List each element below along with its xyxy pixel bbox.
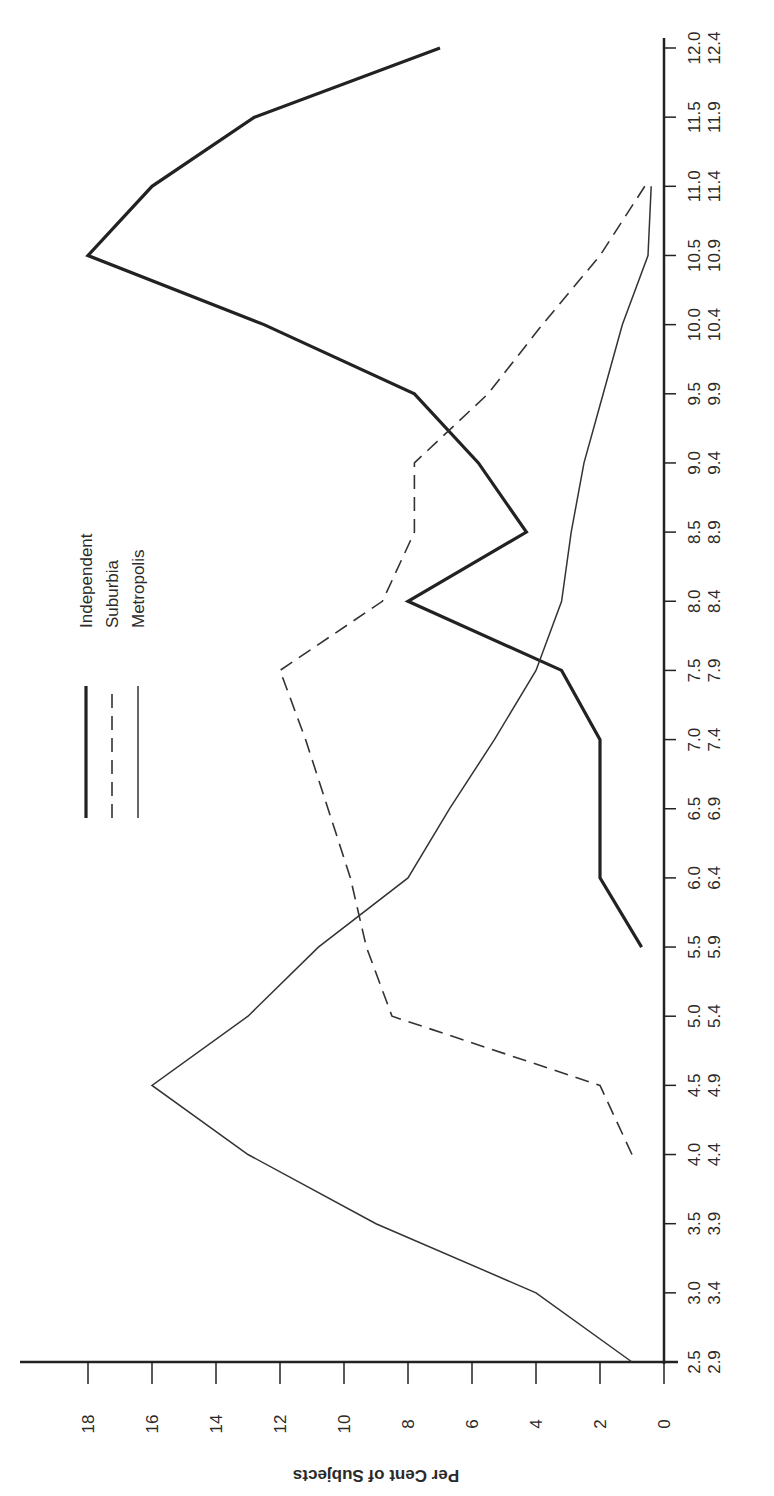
category-tick-label-secondary: 4.4: [705, 1143, 724, 1167]
legend: IndependentSuburbiaMetropolis: [77, 533, 148, 818]
line-chart: 2.52.93.03.43.53.94.04.44.54.95.05.45.55…: [0, 0, 774, 1496]
category-tick-label-secondary: 9.4: [705, 451, 724, 475]
category-tick-label-secondary: 10.9: [705, 239, 724, 272]
category-tick-label: 6.5: [685, 797, 704, 821]
category-tick-label: 9.5: [685, 382, 704, 406]
category-tick-label: 6.0: [685, 866, 704, 890]
category-tick-label: 4.5: [685, 1074, 704, 1098]
category-tick-label: 10.0: [685, 308, 704, 341]
category-tick-label: 2.5: [685, 1350, 704, 1374]
category-tick-label-secondary: 3.9: [705, 1212, 724, 1236]
category-tick-label-secondary: 6.9: [705, 797, 724, 821]
category-tick-label: 11.0: [685, 170, 704, 202]
category-tick-label: 3.0: [685, 1281, 704, 1305]
category-tick-label-secondary: 5.9: [705, 935, 724, 959]
category-tick-label: 7.0: [685, 728, 704, 752]
value-tick-label: 10: [335, 1415, 354, 1434]
category-tick-label-secondary: 10.4: [705, 308, 724, 341]
series-group: [88, 48, 651, 1362]
value-tick-label: 18: [79, 1415, 98, 1434]
value-tick-label: 0: [655, 1419, 674, 1428]
category-tick-label: 5.0: [685, 1004, 704, 1028]
category-tick-label-secondary: 5.4: [705, 1004, 724, 1028]
category-tick-label-secondary: 7.4: [705, 728, 724, 752]
category-tick-label: 7.5: [685, 659, 704, 683]
category-tick-label-secondary: 12.4: [705, 31, 724, 64]
category-tick-label: 8.0: [685, 589, 704, 613]
category-tick-label-secondary: 7.9: [705, 659, 724, 683]
category-tick-label-secondary: 4.9: [705, 1074, 724, 1098]
category-tick-label-secondary: 8.9: [705, 520, 724, 544]
value-tick-label: 16: [143, 1415, 162, 1434]
value-tick-label: 8: [399, 1419, 418, 1428]
category-tick-label-secondary: 3.4: [705, 1281, 724, 1305]
series-line-metropolis: [152, 186, 651, 1362]
category-tick-label: 5.5: [685, 935, 704, 959]
category-tick-label: 10.5: [685, 239, 704, 272]
value-tick-label: 12: [271, 1415, 290, 1434]
category-tick-label: 3.5: [685, 1212, 704, 1236]
legend-label-independent: Independent: [77, 533, 96, 628]
category-tick-label-secondary: 6.4: [705, 866, 724, 890]
series-line-suburbia: [280, 186, 645, 1154]
series-line-independent: [88, 48, 642, 947]
category-tick-label: 11.5: [685, 101, 704, 133]
axes: 2.52.93.03.43.53.94.04.44.54.95.05.45.55…: [20, 31, 724, 1485]
category-tick-label: 12.0: [685, 31, 704, 64]
category-tick-label-secondary: 2.9: [705, 1350, 724, 1374]
category-tick-label-secondary: 11.4: [705, 170, 724, 202]
legend-label-suburbia: Suburbia: [103, 559, 122, 628]
category-tick-label-secondary: 8.4: [705, 589, 724, 613]
value-axis-title: Per Cent of Subjects: [293, 1466, 459, 1485]
value-tick-label: 14: [207, 1415, 226, 1434]
value-tick-label: 6: [463, 1419, 482, 1428]
category-tick-label: 4.0: [685, 1143, 704, 1167]
category-tick-label: 8.5: [685, 520, 704, 544]
category-tick-label-secondary: 11.9: [705, 101, 724, 133]
value-tick-label: 2: [591, 1419, 610, 1428]
legend-label-metropolis: Metropolis: [129, 550, 148, 628]
category-tick-label-secondary: 9.9: [705, 382, 724, 406]
category-tick-label: 9.0: [685, 451, 704, 475]
value-tick-label: 4: [527, 1419, 546, 1428]
